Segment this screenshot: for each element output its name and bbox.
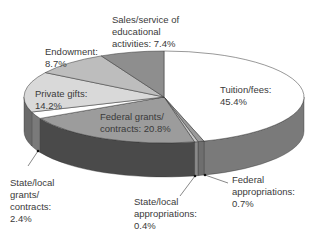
side-state-local-grants-contracts [32, 112, 40, 152]
label-private-gifts: Private gifts: 14.2% [35, 88, 87, 112]
label-state-grants: State/local grants/ contracts: 2.4% [10, 177, 54, 225]
leader-federal-approp [205, 175, 228, 183]
leader-state-grants [28, 151, 38, 166]
label-sales: Sales/service of educational activities:… [112, 14, 179, 50]
side-federal-appropriations [198, 141, 204, 176]
label-federal-approp: Federal appropriations: 0.7% [232, 174, 295, 210]
leader-dot-federal-approp [204, 174, 207, 177]
label-tuition: Tuition/fees: 45.4% [220, 84, 271, 108]
leader-dot-state-grants [37, 150, 40, 153]
label-state-approp: State/local appropriations: 0.4% [134, 196, 197, 232]
label-endowment: Endowment: 8.7% [45, 46, 98, 70]
leader-state-approp [180, 176, 195, 196]
side-state-local-appropriations [195, 142, 198, 176]
leader-dot-state-approp [194, 175, 197, 178]
label-federal-grants: Federal grants/ contracts: 20.8% [100, 111, 171, 135]
